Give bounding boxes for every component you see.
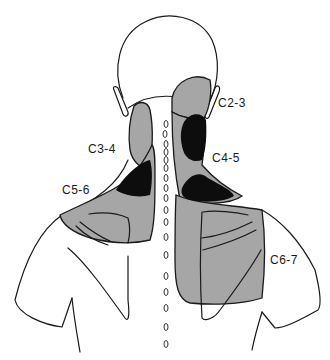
label-c5-6: C5-6 xyxy=(62,183,90,197)
right-torso-line xyxy=(252,312,262,350)
spine-vertebrae xyxy=(163,121,168,348)
label-c6-7: C6-7 xyxy=(270,253,298,267)
left-torso-line xyxy=(72,298,80,352)
c2-3-zone xyxy=(172,77,211,119)
cervical-referral-diagram: C2-3 C3-4 C4-5 C5-6 C6-7 xyxy=(0,0,330,360)
label-c4-5: C4-5 xyxy=(212,151,240,165)
right-shoulder-outline xyxy=(262,210,320,328)
left-arm-inner xyxy=(68,248,129,319)
label-c3-4: C3-4 xyxy=(88,142,116,156)
c3-4-c5-6-overlap xyxy=(116,160,152,196)
label-c2-3: C2-3 xyxy=(218,96,246,110)
